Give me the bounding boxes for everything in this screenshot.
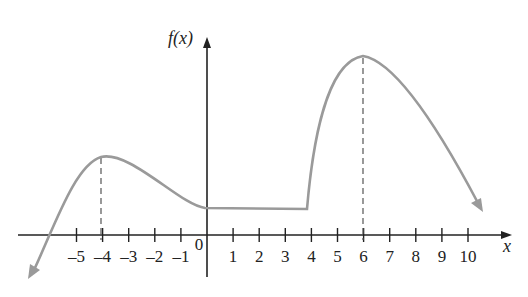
y-axis-arrow-icon: [203, 37, 211, 48]
x-axis-label: x: [502, 236, 511, 256]
y-axis-label: f(x): [168, 28, 193, 49]
x-tick-label: –1: [171, 247, 189, 266]
x-tick-label: 10: [460, 247, 477, 266]
x-tick-label: 6: [359, 247, 368, 266]
left-curve-arrow-icon: [28, 264, 40, 279]
x-tick-label: –2: [145, 247, 163, 266]
x-tick-label: –3: [119, 247, 137, 266]
x-tick-label: –4: [93, 247, 112, 266]
x-tick-label: 2: [255, 247, 264, 266]
x-tick-label: 5: [333, 247, 342, 266]
right-curve-arrow-icon: [471, 198, 483, 212]
x-tick-label: 9: [438, 247, 447, 266]
x-tick-label: 8: [412, 247, 421, 266]
x-tick-label: 1: [229, 247, 238, 266]
x-tick-label: 0: [195, 235, 204, 254]
x-tick-label: 7: [385, 247, 394, 266]
x-tick-label: 4: [307, 247, 316, 266]
x-tick-label: 3: [281, 247, 290, 266]
function-graph: –5–4–3–2–1012345678910 f(x) x: [0, 0, 528, 297]
x-tick-label: –5: [67, 247, 85, 266]
